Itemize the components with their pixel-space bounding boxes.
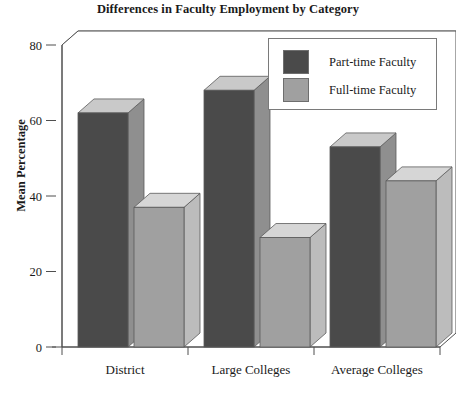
y-tick-label: 60 [30, 114, 43, 128]
y-tick-label: 0 [36, 341, 42, 355]
bar-district-full-time-faculty [134, 193, 200, 347]
y-axis-ticks: 020406080 [30, 39, 57, 355]
x-axis-ticks [62, 347, 440, 355]
legend-swatch-part-time [283, 50, 309, 74]
legend: Part-time Faculty Full-time Faculty [268, 38, 437, 110]
legend-label-part-time: Part-time Faculty [329, 55, 416, 70]
bar-average-colleges-full-time-faculty [386, 167, 452, 347]
y-tick-label: 20 [30, 265, 43, 279]
legend-label-full-time: Full-time Faculty [329, 83, 416, 98]
x-category-label: Average Colleges [331, 362, 423, 377]
y-tick-label: 40 [30, 190, 43, 204]
chart-container: Differences in Faculty Employment by Cat… [0, 0, 456, 411]
legend-item-full-time: Full-time Faculty [283, 78, 416, 102]
legend-swatch-full-time [283, 78, 309, 102]
x-category-label: District [106, 362, 145, 377]
x-category-label: Large Colleges [212, 362, 291, 377]
x-axis-category-labels: DistrictLarge CollegesAverage Colleges [106, 362, 423, 377]
legend-item-part-time: Part-time Faculty [283, 50, 416, 74]
y-tick-label: 80 [30, 39, 43, 53]
bar-large-colleges-full-time-faculty [260, 224, 326, 347]
